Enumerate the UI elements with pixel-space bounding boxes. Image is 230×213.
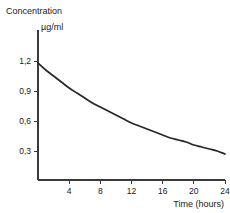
concentration-time-chart: Concentration µg/ml 0,30,60,91,2 4812162… <box>0 0 230 213</box>
y-tick-label: 1,2 <box>19 56 31 66</box>
y-tick-label: 0,9 <box>19 86 31 96</box>
x-tick-label: 12 <box>127 186 137 196</box>
y-axis-title-line-1: Concentration <box>6 6 62 16</box>
x-tick-label: 24 <box>220 186 230 196</box>
x-tick-label: 20 <box>189 186 199 196</box>
concentration-decay-curve <box>38 63 225 154</box>
x-tick-label: 4 <box>67 186 72 196</box>
x-axis-ticks: 4812162024 <box>67 180 230 196</box>
x-tick-label: 16 <box>158 186 168 196</box>
y-axis-ticks: 0,30,60,91,2 <box>19 56 38 156</box>
y-axis-title-group: Concentration µg/ml <box>6 6 63 32</box>
data-series-group <box>38 63 225 154</box>
x-tick-label: 8 <box>98 186 103 196</box>
axes-group <box>38 30 225 180</box>
chart-svg: Concentration µg/ml 0,30,60,91,2 4812162… <box>0 0 230 213</box>
x-axis-title: Time (hours) <box>173 199 224 209</box>
y-tick-label: 0,3 <box>19 146 31 156</box>
y-tick-label: 0,6 <box>19 116 31 126</box>
y-axis-title-line-2: µg/ml <box>41 22 63 32</box>
